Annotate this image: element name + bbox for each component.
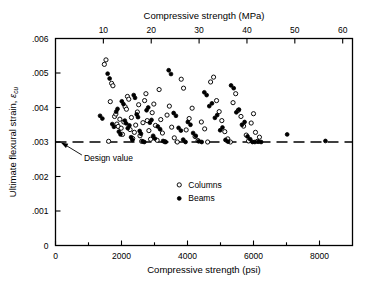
data-point: [209, 80, 213, 84]
data-point: [158, 127, 162, 131]
data-point: [102, 62, 106, 66]
x-tick-label: 6000: [244, 251, 263, 261]
data-point: [237, 108, 241, 112]
data-point: [157, 87, 161, 91]
data-point: [112, 125, 116, 129]
data-point: [108, 100, 112, 104]
x-tick-label: 2000: [112, 251, 131, 261]
data-point: [170, 125, 174, 129]
data-point: [259, 140, 263, 144]
x-axis-title: Compressive strength (psi): [147, 264, 261, 275]
legend-label-beams: Beams: [188, 193, 214, 203]
data-point: [239, 114, 243, 118]
y-axis-title: Ultimate flexural strain, εcu: [7, 86, 19, 197]
data-point: [174, 114, 178, 118]
data-point: [251, 112, 255, 116]
data-point: [167, 104, 171, 108]
data-point: [132, 130, 136, 134]
y-tick-label: .004: [32, 103, 49, 113]
x-top-tick-label: 10: [99, 25, 109, 35]
data-point: [150, 111, 154, 115]
data-point: [253, 140, 257, 144]
y-tick-label: .006: [32, 34, 49, 44]
data-point: [119, 133, 123, 137]
data-point: [146, 106, 150, 110]
data-point: [175, 140, 179, 144]
data-point: [118, 117, 122, 121]
legend-marker-columns: [177, 183, 181, 187]
data-point: [203, 127, 207, 131]
data-point: [215, 113, 219, 117]
data-point: [223, 130, 227, 134]
data-point: [150, 118, 154, 122]
data-point: [181, 86, 185, 90]
figure-container: 020004000600080001020304050600.001.002.0…: [0, 0, 365, 285]
data-point: [143, 99, 147, 103]
data-point: [100, 117, 104, 121]
data-point: [111, 84, 115, 88]
scatter-plot: 020004000600080001020304050600.001.002.0…: [0, 0, 365, 285]
data-point: [189, 123, 193, 127]
data-point: [107, 139, 111, 143]
data-point: [172, 136, 176, 140]
data-point: [179, 77, 183, 81]
y-tick-label: .001: [32, 206, 49, 216]
data-point: [128, 124, 132, 128]
data-point: [211, 75, 215, 79]
data-point: [106, 72, 110, 76]
data-point: [210, 101, 214, 105]
data-point: [285, 133, 289, 137]
data-point: [249, 121, 253, 125]
x-top-tick-label: 40: [242, 25, 252, 35]
data-point: [184, 140, 188, 144]
data-point: [124, 107, 128, 111]
data-point: [129, 115, 133, 119]
data-point: [139, 132, 143, 136]
data-point: [141, 121, 145, 125]
data-point: [257, 135, 261, 139]
data-point: [243, 120, 247, 124]
data-point: [159, 117, 163, 121]
data-point: [194, 134, 198, 138]
data-point: [108, 77, 112, 81]
data-point: [165, 113, 169, 117]
data-point: [190, 106, 194, 110]
data-point: [205, 93, 209, 97]
data-point: [199, 120, 203, 124]
data-point: [169, 72, 173, 76]
y-tick-label: .005: [32, 68, 49, 78]
x-axis-title-top: Compressive strength (MPa): [144, 10, 265, 21]
data-point: [137, 103, 141, 107]
data-point: [234, 92, 238, 96]
legend-label-columns: Columns: [188, 180, 222, 190]
annotation-design-value: Design value: [84, 153, 133, 163]
data-point: [152, 102, 156, 106]
data-point: [136, 115, 140, 119]
data-point: [164, 140, 168, 144]
data-point: [130, 138, 134, 142]
data-point: [153, 137, 157, 141]
annotation-arrowhead: [61, 143, 69, 148]
x-top-tick-label: 20: [146, 25, 156, 35]
data-point: [220, 119, 224, 123]
data-point: [167, 68, 171, 72]
legend-marker-beams: [177, 196, 181, 200]
y-tick-label: .002: [32, 172, 49, 182]
data-point: [253, 130, 257, 134]
data-point: [221, 126, 225, 130]
x-tick-label: 4000: [178, 251, 197, 261]
y-tick-label: .003: [32, 137, 49, 147]
y-tick-label: 0: [44, 241, 49, 251]
data-point: [134, 123, 138, 127]
data-point: [324, 139, 328, 143]
data-point: [127, 97, 131, 101]
x-tick-label: 0: [53, 251, 58, 261]
data-point: [214, 99, 218, 103]
data-point: [116, 107, 120, 111]
data-point: [144, 92, 148, 96]
data-point: [147, 129, 151, 133]
data-point: [160, 131, 164, 135]
data-point: [184, 128, 188, 132]
x-top-tick-label: 60: [338, 25, 348, 35]
data-point: [232, 86, 236, 90]
